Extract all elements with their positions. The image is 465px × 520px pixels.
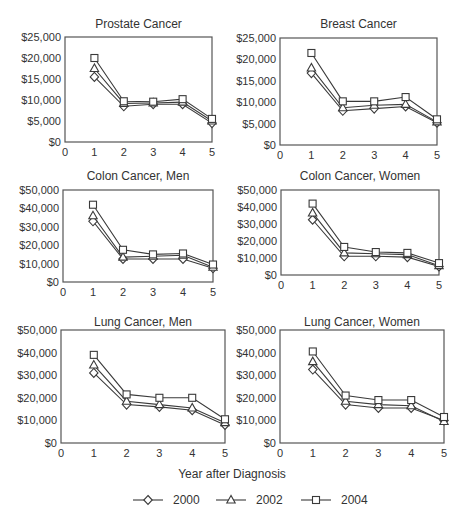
y-tick-label: $5,000 <box>27 115 61 127</box>
x-tick-label: 4 <box>180 146 186 158</box>
y-tick-label: $0 <box>264 437 276 449</box>
square-marker-icon <box>189 394 196 401</box>
square-marker-icon <box>371 98 378 105</box>
chart-panel-breast-cancer: Breast Cancer$0$5,000$10,000$15,000$20,0… <box>236 17 441 161</box>
square-marker-icon <box>372 249 379 256</box>
y-tick-label: $10,000 <box>236 414 276 426</box>
square-marker-icon <box>123 391 130 398</box>
y-tick-label: $25,000 <box>236 32 276 44</box>
y-tick-label: $30,000 <box>236 369 276 381</box>
x-tick-label: 3 <box>150 146 156 158</box>
square-marker-icon <box>375 397 382 404</box>
panel-title: Lung Cancer, Men <box>94 315 192 329</box>
y-tick-label: $50,000 <box>236 324 276 336</box>
x-tick-label: 0 <box>277 447 283 459</box>
y-tick-label: $0 <box>265 269 277 281</box>
square-marker-icon <box>209 115 216 122</box>
x-tick-label: 3 <box>375 447 381 459</box>
y-tick-label: $5,000 <box>242 118 276 130</box>
square-marker-icon <box>90 351 97 358</box>
x-tick-label: 2 <box>343 447 349 459</box>
triangle-marker-icon <box>89 211 97 219</box>
y-tick-label: $10,000 <box>21 94 61 106</box>
square-marker-icon <box>91 55 98 62</box>
x-tick-label: 2 <box>340 149 346 161</box>
y-tick-label: $20,000 <box>21 52 61 64</box>
square-marker-icon <box>120 98 127 105</box>
x-axis-label: Year after Diagnosis <box>178 467 286 481</box>
y-tick-label: $15,000 <box>236 75 276 87</box>
y-tick-label: $30,000 <box>19 221 59 233</box>
square-marker-icon <box>402 94 409 101</box>
square-marker-icon <box>308 49 315 56</box>
y-tick-label: $0 <box>49 136 61 148</box>
x-tick-label: 1 <box>90 286 96 298</box>
x-tick-label: 0 <box>58 447 64 459</box>
x-tick-label: 0 <box>277 149 283 161</box>
x-tick-label: 1 <box>310 279 316 291</box>
chart-panel-colon-cancer-women: Colon Cancer, Women$0$10,000$20,000$30,0… <box>237 169 443 291</box>
square-marker-icon <box>441 414 448 421</box>
y-tick-label: $20,000 <box>19 239 59 251</box>
x-tick-label: 4 <box>189 447 195 459</box>
square-marker-icon <box>179 96 186 103</box>
legend-item-2002: 2002 <box>216 493 283 507</box>
square-marker-icon <box>150 251 157 258</box>
y-tick-label: $25,000 <box>21 31 61 43</box>
x-tick-label: 5 <box>209 146 215 158</box>
y-tick-label: $40,000 <box>17 347 57 359</box>
x-tick-label: 1 <box>91 146 97 158</box>
x-tick-label: 5 <box>210 286 216 298</box>
x-tick-label: 2 <box>121 146 127 158</box>
x-tick-label: 0 <box>62 146 68 158</box>
panel-title: Colon Cancer, Women <box>300 169 421 183</box>
y-tick-label: $20,000 <box>17 392 57 404</box>
x-tick-label: 2 <box>124 447 130 459</box>
square-marker-icon <box>210 261 217 268</box>
square-marker-icon <box>436 260 443 267</box>
y-tick-label: $40,000 <box>19 202 59 214</box>
square-marker-icon <box>222 416 229 423</box>
y-tick-label: $0 <box>264 139 276 151</box>
square-marker-icon <box>309 200 316 207</box>
x-tick-label: 4 <box>180 286 186 298</box>
y-tick-label: $30,000 <box>17 369 57 381</box>
x-tick-label: 4 <box>408 447 414 459</box>
y-tick-label: $50,000 <box>19 184 59 196</box>
chart-panel-colon-cancer-men: Colon Cancer, Men$0$10,000$20,000$30,000… <box>19 169 217 298</box>
y-tick-label: $0 <box>45 437 57 449</box>
y-tick-label: $40,000 <box>236 347 276 359</box>
triangle-marker-icon <box>90 361 98 369</box>
legend-item-2004: 2004 <box>301 493 368 507</box>
x-tick-label: 5 <box>434 149 440 161</box>
legend-item-2000: 2000 <box>133 493 200 507</box>
y-tick-label: $10,000 <box>17 414 57 426</box>
square-marker-icon <box>309 348 316 355</box>
square-marker-icon <box>150 98 157 105</box>
x-tick-label: 3 <box>373 279 379 291</box>
y-tick-label: $50,000 <box>17 324 57 336</box>
square-marker-icon <box>90 201 97 208</box>
y-tick-label: $0 <box>47 276 59 288</box>
y-tick-label: $40,000 <box>237 201 277 213</box>
x-tick-label: 5 <box>436 279 442 291</box>
square-marker-icon <box>408 397 415 404</box>
legend-label: 2000 <box>173 493 200 507</box>
legend-label: 2002 <box>256 493 283 507</box>
plot-frame <box>281 190 439 275</box>
panel-title: Prostate Cancer <box>95 17 182 31</box>
chart-panel-lung-cancer-men: Lung Cancer, Men$0$10,000$20,000$30,000$… <box>17 315 229 459</box>
square-marker-icon <box>434 116 441 123</box>
x-tick-label: 0 <box>278 279 284 291</box>
y-tick-label: $20,000 <box>236 53 276 65</box>
triangle-icon <box>227 496 235 504</box>
plot-frame <box>280 330 444 443</box>
y-tick-label: $15,000 <box>21 73 61 85</box>
plot-frame <box>280 38 437 145</box>
square-marker-icon <box>156 394 163 401</box>
square-marker-icon <box>341 243 348 250</box>
x-tick-label: 1 <box>310 447 316 459</box>
plot-frame <box>61 330 225 443</box>
diamond-icon <box>144 496 152 505</box>
panel-title: Lung Cancer, Women <box>304 315 420 329</box>
